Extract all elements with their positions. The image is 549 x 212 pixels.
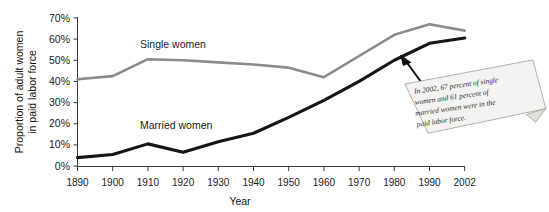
y-axis-title-line1: Proportion of adult women — [13, 31, 25, 154]
x-tick-label: 2002 — [454, 177, 477, 188]
x-tick-label: 1940 — [242, 177, 265, 188]
x-tick-label: 1950 — [278, 177, 301, 188]
y-tick-label: 30% — [49, 96, 70, 108]
x-axis-tick-labels: 1890 1900 1910 1920 1930 1940 1950 1960 … — [66, 177, 476, 188]
x-tick-label: 1970 — [348, 177, 371, 188]
y-tick-label: 60% — [49, 33, 70, 45]
y-tick-label: 70% — [49, 12, 70, 24]
axis-lines — [78, 17, 466, 167]
annotation-note-2002: In 2002, 67 percent of single women and … — [400, 55, 547, 140]
y-tick-label: 0% — [55, 160, 70, 172]
series-label-married-women: Married women — [140, 119, 213, 131]
x-tick-label: 1920 — [172, 177, 195, 188]
y-axis-title: Proportion of adult women in paid labor … — [13, 31, 38, 154]
y-tick-label: 40% — [49, 75, 70, 87]
y-axis-tick-marks — [74, 18, 78, 166]
x-axis-tick-marks — [78, 167, 465, 172]
y-axis-title-line2: in paid labor force — [26, 50, 38, 134]
y-tick-label: 10% — [49, 138, 70, 150]
series-line-married-women — [78, 38, 465, 158]
y-axis-tick-labels: 70% 60% 50% 40% 30% 20% 10% 0% — [49, 12, 70, 172]
x-tick-label: 1980 — [383, 177, 406, 188]
annotation-paper-group: In 2002, 67 percent of single women and … — [404, 59, 547, 139]
y-tick-label: 50% — [49, 54, 70, 66]
chart-container: Proportion of adult women in paid labor … — [0, 0, 549, 212]
x-tick-label: 1990 — [418, 177, 441, 188]
series-line-single-women — [78, 24, 465, 79]
x-tick-label: 1900 — [102, 177, 125, 188]
x-tick-label: 1910 — [137, 177, 160, 188]
x-tick-label: 1930 — [207, 177, 230, 188]
x-tick-label: 1890 — [66, 177, 89, 188]
x-tick-label: 1960 — [313, 177, 336, 188]
y-tick-label: 20% — [49, 117, 70, 129]
x-axis-title: Year — [229, 195, 251, 207]
line-chart: Proportion of adult women in paid labor … — [0, 0, 549, 212]
series-label-single-women: Single women — [140, 38, 206, 50]
